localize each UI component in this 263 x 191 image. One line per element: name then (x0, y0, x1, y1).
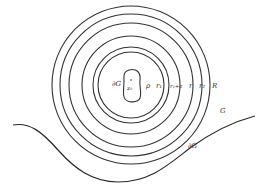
label-inner-boundary: ∂G (112, 80, 122, 88)
label-r2: r₂ (199, 82, 205, 90)
diagram-canvas: ∂G z₀ ρ r₁ r₁+ε r r₂ R G ∂G (0, 0, 263, 191)
label-r1: r₁ (156, 82, 162, 90)
label-R: R (211, 82, 218, 90)
outer-boundary-curve (13, 116, 255, 182)
label-z0: z₀ (126, 85, 133, 91)
label-region-G: G (220, 107, 226, 115)
point-z0-dot (130, 79, 132, 81)
label-outer-boundary: ∂G (188, 142, 198, 150)
label-rho: ρ (145, 82, 151, 90)
label-r1-plus-epsilon: r₁+ε (170, 83, 182, 89)
